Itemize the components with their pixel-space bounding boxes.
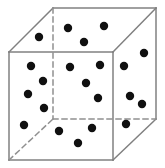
particle-dot [94,94,102,102]
particle-dot [122,120,130,128]
particles-in-a-cube-figure [0,0,165,168]
particle-dot [82,79,90,87]
cube-diagram [0,0,165,168]
particle-dot [88,124,96,132]
particle-dot [66,63,74,71]
particle-dot [35,33,43,41]
particle-dot [27,62,35,70]
cube-edge-front_bottom_right-to-back_bottom_right [113,119,156,160]
particle-dot [74,139,82,147]
particle-dot [140,49,148,57]
particle-dot [100,22,108,30]
particle-dot [64,24,72,32]
particle-dot [40,104,48,112]
particle-dot [96,61,104,69]
cube-edge-front_top_left-to-back_top_left [9,8,53,52]
particle-dot [24,90,32,98]
particle-dot [126,92,134,100]
particle-dot [120,62,128,70]
particle-dot [20,121,28,129]
particle-dot [80,38,88,46]
particle-dot [39,77,47,85]
particle-dot [55,127,63,135]
particle-layer [20,22,148,147]
cube-edge-front_top_right-to-back_top_right [113,8,156,52]
cube-hidden-edge-front_bottom_left-to-back_bottom_left [9,119,53,160]
particle-dot [138,100,146,108]
